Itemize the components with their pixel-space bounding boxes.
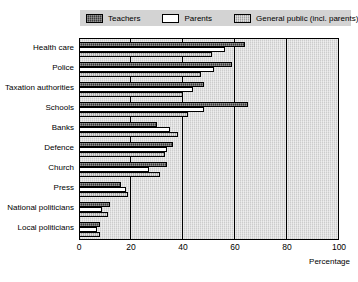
x-tick-label-60: 60 — [230, 243, 239, 252]
legend-swatch-teachers — [86, 14, 103, 23]
bar-group — [79, 42, 339, 57]
bar — [79, 52, 212, 57]
category-label: Church — [48, 164, 74, 172]
legend-label-teachers: Teachers — [108, 14, 140, 23]
bar-group — [79, 202, 339, 217]
bar — [79, 172, 160, 177]
category-label: Local politicians — [18, 224, 74, 232]
x-tick-label-20: 20 — [126, 243, 135, 252]
category-label: National politicians — [7, 204, 74, 212]
bar-group — [79, 102, 339, 117]
x-axis-title: Percentage — [309, 257, 350, 266]
category-label: Police — [52, 64, 74, 72]
bar — [79, 112, 188, 117]
x-tick-label-100: 100 — [332, 243, 346, 252]
bar — [79, 132, 178, 137]
legend-item-parents: Parents — [162, 11, 212, 25]
category-label: Health care — [33, 44, 74, 52]
bar — [79, 152, 165, 157]
bar-group — [79, 222, 339, 237]
bar — [79, 92, 183, 97]
bar — [79, 72, 201, 77]
category-label: Taxation authorities — [5, 84, 74, 92]
legend-item-general-public: General public (incl. parents) — [234, 11, 358, 25]
x-tick-label-0: 0 — [77, 243, 82, 252]
legend-swatch-general-public — [234, 14, 251, 23]
bar-group — [79, 62, 339, 77]
x-tick-label-80: 80 — [282, 243, 291, 252]
bar — [79, 192, 128, 197]
x-tick-label-40: 40 — [178, 243, 187, 252]
plot-area — [79, 38, 339, 240]
bar — [79, 232, 100, 237]
legend-item-teachers: Teachers — [86, 11, 140, 25]
category-label: Schools — [46, 104, 74, 112]
category-label: Defence — [44, 144, 74, 152]
category-label: Press — [54, 184, 74, 192]
bar — [79, 212, 108, 217]
bar-chart: Teachers Parents General public (incl. p… — [0, 0, 358, 282]
legend-label-parents: Parents — [184, 14, 212, 23]
legend-label-general-public: General public (incl. parents) — [256, 14, 358, 23]
bar-group — [79, 182, 339, 197]
bar-group — [79, 122, 339, 137]
chart-legend: Teachers Parents General public (incl. p… — [80, 10, 351, 26]
category-label: Banks — [52, 124, 74, 132]
legend-swatch-parents — [162, 14, 179, 23]
bar-group — [79, 162, 339, 177]
bar-group — [79, 82, 339, 97]
bar-group — [79, 142, 339, 157]
